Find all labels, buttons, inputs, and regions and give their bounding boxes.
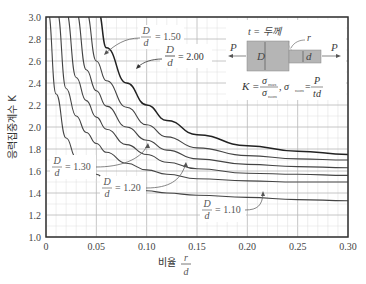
load-right: P [330,41,338,53]
y-tick-label: 2.6 [29,56,42,67]
y-axis-ticks: 1.01.21.41.61.82.02.22.42.62.83.0 [29,12,42,243]
svg-text:d: d [167,56,173,68]
svg-text:D: D [102,176,111,187]
svg-text:= 2.00: = 2.00 [178,51,204,62]
svg-text:nom: nom [268,94,277,99]
y-tick-label: 1.6 [29,166,42,177]
inset-diagram: t = 두께 D d r P P K = σ max σ nom , σ nom… [226,20,346,100]
y-tick-label: 1.4 [29,188,42,199]
y-tick-label: 1.2 [29,210,42,221]
y-tick-label: 2.8 [29,34,42,45]
y-tick-label: 1.0 [29,232,42,243]
x-tick-label: 0 [44,241,49,252]
y-tick-label: 2.2 [29,100,42,111]
svg-text:td: td [313,88,322,99]
stress-concentration-chart: 1.01.21.41.61.82.02.22.42.62.83.0 00.050… [0,0,366,284]
svg-text:, σ: , σ [279,81,290,92]
x-axis-ticks: 00.050.100.150.200.250.30 [44,241,357,252]
x-tick-label: 0.25 [289,241,307,252]
svg-text:D: D [141,25,150,36]
x-tick-label: 0.30 [339,241,357,252]
y-axis-title: 응력집중계수 K [7,95,18,159]
x-tick-label: 0.05 [88,241,106,252]
x-tick-label: 0.20 [239,241,257,252]
svg-text:= 1.20: = 1.20 [115,182,141,193]
narrow-section [289,50,321,63]
fillet-r: r [307,32,311,43]
x-axis-title-num: r [184,252,188,263]
y-tick-label: 1.8 [29,144,42,155]
svg-text:=: = [305,81,311,92]
svg-text:= 1.50: = 1.50 [155,31,181,42]
label-d-1-20: D d = 1.20 [100,162,188,200]
thickness-label: t = 두께 [248,26,283,37]
svg-text:max: max [268,82,277,87]
load-left: P [229,41,237,53]
x-tick-label: 0.10 [138,241,156,252]
y-tick-label: 2.0 [29,122,42,133]
svg-text:nom: nom [295,88,304,93]
wide-section [247,41,289,71]
svg-text:D: D [165,43,174,55]
svg-text:K =: K = [241,80,260,92]
x-axis-title-prefix: 비율 [158,257,176,268]
svg-text:D: D [202,198,211,209]
svg-text:P: P [313,75,320,86]
x-axis-title-den: d [184,266,190,277]
svg-text:= 1.30: = 1.30 [65,161,91,172]
y-tick-label: 3.0 [29,12,42,23]
svg-text:= 1.10: = 1.10 [215,204,241,215]
x-axis-title: 비율 r d [158,252,191,277]
svg-text:D: D [52,155,61,166]
dim-D: D [256,50,265,62]
dim-d: d [306,50,312,62]
x-tick-label: 0.15 [188,241,206,252]
y-tick-label: 2.4 [29,78,42,89]
